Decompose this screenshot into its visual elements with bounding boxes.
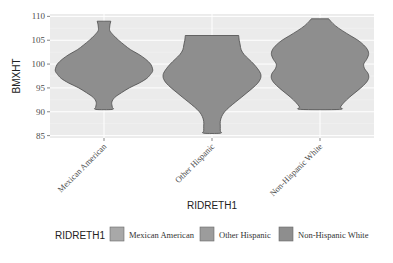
legend: RIDRETH1 Mexican AmericanOther HispanicN… bbox=[55, 227, 369, 241]
violin-chart: 859095100105110 Mexican AmericanOther Hi… bbox=[0, 0, 393, 263]
x-tick-label: Non-Hispanic White bbox=[268, 141, 325, 198]
y-tick-label: 105 bbox=[32, 35, 46, 45]
legend-key bbox=[279, 227, 293, 241]
legend-key bbox=[110, 227, 124, 241]
x-axis: Mexican AmericanOther HispanicNon-Hispan… bbox=[55, 138, 324, 198]
legend-label: Other Hispanic bbox=[219, 230, 271, 240]
y-tick-label: 95 bbox=[36, 83, 46, 93]
y-axis: 859095100105110 bbox=[32, 11, 51, 140]
x-tick-label: Other Hispanic bbox=[173, 141, 217, 185]
x-tick-label: Mexican American bbox=[55, 141, 108, 194]
y-tick-label: 110 bbox=[32, 11, 46, 21]
x-axis-title: RIDRETH1 bbox=[187, 200, 237, 211]
y-axis-title: BMXHT bbox=[11, 59, 22, 94]
legend-key bbox=[200, 227, 214, 241]
legend-title: RIDRETH1 bbox=[55, 230, 105, 241]
legend-label: Non-Hispanic White bbox=[298, 230, 369, 240]
y-tick-label: 90 bbox=[36, 107, 46, 117]
y-tick-label: 100 bbox=[32, 59, 46, 69]
y-tick-label: 85 bbox=[36, 131, 46, 141]
legend-label: Mexican American bbox=[129, 230, 195, 240]
